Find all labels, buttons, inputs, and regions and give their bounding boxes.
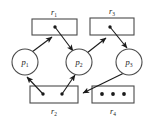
process-node-p3[interactable]: p3 bbox=[116, 49, 142, 75]
resource-node-r3[interactable]: r3 bbox=[90, 7, 134, 35]
resource-label-r3: r3 bbox=[109, 7, 115, 17]
edge-p2-to-r3 bbox=[87, 38, 106, 53]
process-node-p1[interactable]: p1 bbox=[12, 49, 38, 75]
resource-node-r4[interactable]: r4 bbox=[92, 86, 134, 117]
edge-p1-to-r1 bbox=[32, 37, 52, 52]
resource-instance-dot bbox=[111, 92, 115, 96]
resource-box-r3[interactable] bbox=[90, 18, 134, 35]
process-node-p2[interactable]: p2 bbox=[66, 49, 92, 75]
resource-node-r2[interactable]: r2 bbox=[30, 86, 78, 117]
resource-allocation-graph-figure: r1 r3 r2 r4 bbox=[0, 0, 155, 123]
resource-label-r1: r1 bbox=[51, 8, 57, 18]
resource-label-r4: r4 bbox=[110, 107, 116, 117]
resource-label-r2: r2 bbox=[51, 107, 57, 117]
process-nodes: p1 p2 p3 bbox=[12, 49, 142, 75]
resource-node-r1[interactable]: r1 bbox=[32, 8, 77, 35]
diagram-canvas: r1 r3 r2 r4 bbox=[0, 0, 155, 123]
resource-instance-dot bbox=[122, 92, 126, 96]
resource-instance-dot bbox=[100, 92, 104, 96]
